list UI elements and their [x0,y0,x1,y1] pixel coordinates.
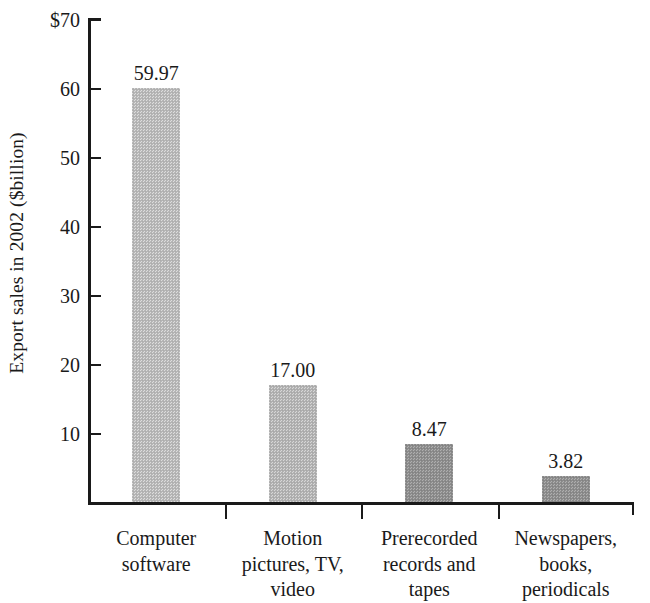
category-label-line: Computer [88,526,225,552]
bar-value-label: 8.47 [412,418,447,441]
y-axis-title: Export sales in 2002 ($billion) [0,0,34,505]
bar: 3.82 [542,476,590,502]
category-label: Newspapers,books,periodicals [498,526,635,603]
bar: 59.97 [132,88,180,502]
bar-rect [269,385,317,502]
category-label-line: pictures, TV, [225,552,362,578]
y-tick-mark [88,19,101,21]
bar-rect [405,444,453,502]
category-label-line: Motion [225,526,362,552]
category-label: Computersoftware [88,526,225,577]
y-tick-mark [88,295,101,297]
category-separator-tick [361,505,363,519]
y-tick-mark [88,88,101,90]
category-label-line: periodicals [498,577,635,603]
category-label-line: records and [361,552,498,578]
bar-value-label: 59.97 [134,62,179,85]
bar-value-label: 3.82 [548,450,583,473]
y-axis-title-text: Export sales in 2002 ($billion) [6,132,28,373]
category-label-line: software [88,552,225,578]
y-tick-label: 10 [60,423,80,446]
y-tick-mark [88,157,101,159]
bar-value-label: 17.00 [270,359,315,382]
category-label: Motionpictures, TV,video [225,526,362,603]
category-separator-tick [498,505,500,519]
y-tick-label: 40 [60,216,80,239]
y-tick-mark [88,433,101,435]
bar: 17.00 [269,385,317,502]
y-tick-label: 60 [60,78,80,101]
bar-rect [542,476,590,502]
category-label-line: tapes [361,577,498,603]
y-axis-line [88,18,91,505]
bar-rect [132,88,180,502]
category-label-line: Newspapers, [498,526,635,552]
x-axis-end-tick [632,502,634,515]
y-tick-label: 50 [60,147,80,170]
y-tick-mark [88,226,101,228]
y-tick-label: $70 [50,9,80,32]
y-tick-label: 30 [60,285,80,308]
bar: 8.47 [405,444,453,502]
category-label: Prerecordedrecords andtapes [361,526,498,603]
category-label-line: video [225,577,362,603]
category-label-line: books, [498,552,635,578]
y-tick-mark [88,364,101,366]
y-tick-label: 20 [60,354,80,377]
category-label-line: Prerecorded [361,526,498,552]
plot-area: $70605040302010 59.9717.008.473.82 Compu… [88,18,634,504]
category-separator-tick [225,505,227,519]
